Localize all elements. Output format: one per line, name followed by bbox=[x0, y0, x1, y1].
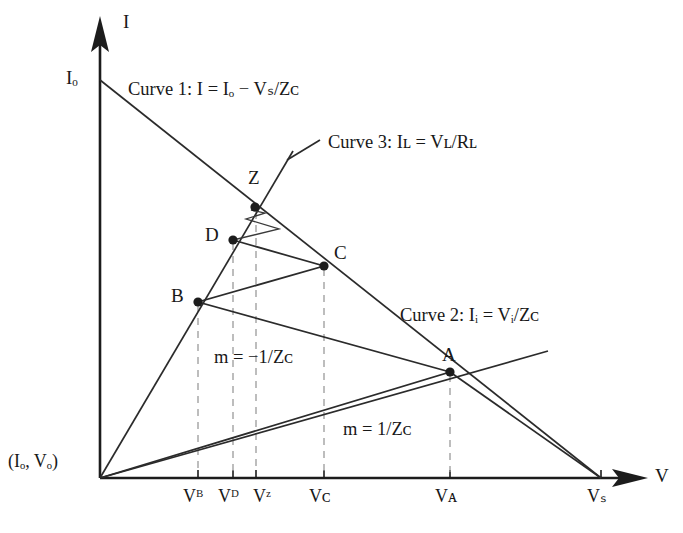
tick-label-vs: Vₛ bbox=[587, 487, 607, 505]
origin-label: (Iₒ, Vₒ) bbox=[8, 452, 58, 470]
diagram-canvas bbox=[0, 0, 683, 533]
point-marker-a bbox=[445, 367, 454, 376]
y-axis-label: I bbox=[123, 12, 129, 31]
tick-label-vd: Vᴰ bbox=[218, 487, 239, 505]
point-marker-c bbox=[319, 261, 328, 270]
tick-label-vb: Vᴮ bbox=[183, 487, 203, 505]
point-label-a: A bbox=[442, 345, 456, 364]
point-label-c: C bbox=[334, 243, 347, 262]
point-marker-d bbox=[228, 235, 237, 244]
slope-positive-label: m = 1/Zᴄ bbox=[343, 420, 412, 439]
tick-label-va: Vᴀ bbox=[435, 487, 457, 505]
point-marker-z bbox=[250, 202, 259, 211]
tick-label-vz: Vᶻ bbox=[253, 487, 271, 505]
point-label-d: D bbox=[205, 225, 219, 244]
slope-negative-label: m = −1/Zᴄ bbox=[214, 348, 293, 367]
curve1-segment-a-to-vs bbox=[450, 372, 601, 478]
point-label-b: B bbox=[171, 286, 184, 305]
curve1-label: Curve 1: I = Iₒ − Vₛ/Zᴄ bbox=[128, 80, 299, 99]
load-line-diagram: I V Iₒ (Iₒ, Vₒ) Curve 1: I = Iₒ − Vₛ/Zᴄ … bbox=[0, 0, 683, 533]
curve3-leader-line bbox=[287, 140, 320, 160]
curve3-label: Curve 3: Iʟ = Vʟ/Rʟ bbox=[328, 133, 477, 152]
curve2-label: Curve 2: Iᵢ = Vᵢ/Zᴄ bbox=[400, 306, 539, 325]
bergeron-staircase-minor bbox=[233, 207, 279, 240]
point-marker-b bbox=[193, 297, 202, 306]
curve2-incident-line bbox=[100, 351, 548, 478]
y-intercept-label: Iₒ bbox=[66, 68, 78, 87]
tick-label-vc: Vᴄ bbox=[309, 487, 331, 505]
x-axis-label: V bbox=[655, 466, 669, 485]
point-label-z: Z bbox=[248, 168, 260, 187]
